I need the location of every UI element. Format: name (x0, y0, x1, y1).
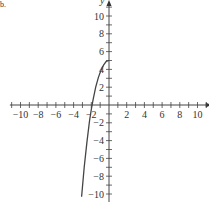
y-tick-label: 10 (94, 11, 104, 22)
axes (10, 0, 209, 202)
x-tick-label: 6 (160, 109, 165, 120)
y-tick-label: −4 (93, 135, 104, 146)
y-tick-label: −10 (88, 189, 104, 200)
y-tick-label: −2 (93, 117, 104, 128)
y-axis-label: y (99, 0, 105, 6)
x-tick-label: −6 (51, 109, 62, 120)
y-tick-label: 8 (99, 28, 104, 39)
x-tick-label: 8 (177, 109, 182, 120)
chart-plot: −10−8−6−4−2246810−10−8−6−4−2246810 x y (0, 0, 209, 202)
x-tick-label: −4 (68, 109, 79, 120)
y-tick-label: 2 (99, 82, 104, 93)
y-tick-label: −8 (93, 171, 104, 182)
x-tick-label: −8 (33, 109, 44, 120)
x-tick-label: 4 (142, 109, 147, 120)
x-tick-label: 2 (124, 109, 129, 120)
x-tick-label: 10 (193, 109, 203, 120)
y-arrow-icon (107, 0, 112, 6)
x-tick-label: −10 (13, 109, 29, 120)
y-tick-label: −6 (93, 153, 104, 164)
y-tick-label: 6 (99, 46, 104, 57)
